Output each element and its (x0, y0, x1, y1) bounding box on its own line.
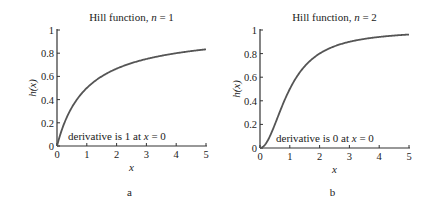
x-tick-label: 0 (54, 149, 59, 160)
x-tick-label: 1 (287, 151, 292, 162)
y-tick-label: 0 (49, 141, 54, 152)
x-tick-label: 4 (174, 149, 180, 160)
y-tick-label: 1 (49, 25, 54, 36)
figure: 01234500.20.40.60.81Hill function, n = 1… (0, 0, 432, 204)
y-axis-label: h(x) (230, 80, 243, 98)
y-tick-label: 0.6 (41, 71, 54, 82)
x-axis-label: x (128, 161, 134, 173)
y-tick-label: 0.8 (41, 48, 54, 59)
panel-label: a (127, 186, 132, 198)
y-tick-label: 0.2 (244, 119, 257, 130)
x-axis-label: x (331, 163, 337, 175)
chart-panel-b: 01234500.20.40.60.81Hill function, n = 2… (230, 11, 412, 198)
x-tick-label: 5 (203, 149, 208, 160)
x-tick-label: 2 (317, 151, 322, 162)
x-tick-label: 1 (84, 149, 89, 160)
y-tick-label: 0 (252, 143, 257, 154)
x-tick-label: 5 (406, 151, 411, 162)
annotation: derivative is 1 at x = 0 (68, 130, 166, 142)
y-tick-label: 0.2 (41, 118, 54, 129)
chart-panel-a: 01234500.20.40.60.81Hill function, n = 1… (26, 11, 209, 198)
chart-title: Hill function, n = 2 (292, 11, 377, 23)
x-tick-label: 3 (347, 151, 352, 162)
y-tick-label: 0.4 (244, 96, 258, 107)
hill-curve (260, 35, 409, 148)
y-axis-label: h(x) (26, 79, 39, 97)
x-tick-label: 3 (144, 149, 149, 160)
y-tick-label: 0.8 (244, 49, 257, 60)
annotation: derivative is 0 at x = 0 (276, 132, 374, 144)
x-tick-label: 2 (114, 149, 119, 160)
y-tick-label: 1 (252, 25, 257, 36)
x-tick-label: 4 (377, 151, 383, 162)
panel-label: b (330, 186, 336, 198)
chart-title: Hill function, n = 1 (89, 11, 174, 23)
y-tick-label: 0.4 (41, 95, 55, 106)
y-tick-label: 0.6 (244, 72, 257, 83)
x-tick-label: 0 (257, 151, 262, 162)
